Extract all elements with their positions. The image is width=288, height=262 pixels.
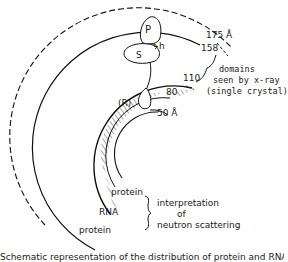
domain-label-S: S <box>136 50 142 60</box>
radius-label-175: 175 Å <box>206 30 232 40</box>
layer-label-outer-protein: protein <box>79 225 111 235</box>
domain-label-h: h <box>159 41 165 51</box>
domain-R-shape <box>138 88 150 109</box>
domain-label-P: P <box>145 25 151 35</box>
xray-note-line1: domains <box>219 64 255 74</box>
dashed-tick <box>217 43 228 56</box>
neutron-note-line3: neutron scattering <box>157 220 240 230</box>
xray-note-line3: (single crystal) <box>206 86 288 96</box>
neutron-brace <box>145 196 151 230</box>
radius-label-50: 50 Å <box>157 108 177 118</box>
radius-label-110: 110 <box>183 73 200 83</box>
figure-caption: Schematic representation of the distribu… <box>0 252 284 262</box>
radius-label-158: 158 <box>201 43 218 53</box>
neutron-note-line1: interpretation <box>157 198 219 208</box>
xray-note-line2: seen by x-ray <box>213 75 280 85</box>
neutron-note-line2: of <box>177 209 186 219</box>
layer-label-rna: RNA <box>99 207 118 217</box>
layer-label-inner-protein: protein <box>111 187 143 197</box>
domain-label-R: (R) <box>118 98 131 108</box>
radius-label-80: 80 <box>166 87 177 97</box>
